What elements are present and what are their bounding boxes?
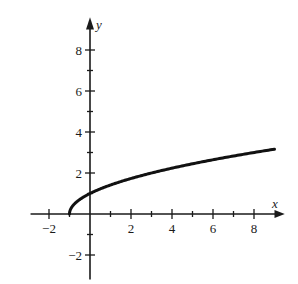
y-axis-arrow-icon bbox=[86, 17, 94, 29]
x-tick-label: 8 bbox=[251, 221, 258, 236]
tick-labels: −22468−22468 bbox=[42, 43, 257, 263]
axes bbox=[31, 17, 285, 279]
y-axis-label: y bbox=[94, 17, 102, 32]
x-tick-label: 4 bbox=[169, 221, 176, 236]
ticks bbox=[49, 50, 254, 255]
y-tick-label: 2 bbox=[76, 166, 83, 181]
x-tick-label: −2 bbox=[42, 221, 56, 236]
function-graph: −22468−22468 x y bbox=[0, 0, 298, 284]
x-axis-arrow-icon bbox=[275, 210, 285, 218]
x-tick-label: 2 bbox=[128, 221, 135, 236]
x-tick-label: 6 bbox=[210, 221, 217, 236]
y-tick-label: 8 bbox=[76, 43, 83, 58]
y-tick-label: −2 bbox=[68, 248, 82, 263]
x-axis-label: x bbox=[271, 196, 278, 211]
y-tick-label: 6 bbox=[76, 84, 83, 99]
function-curve bbox=[70, 149, 275, 214]
y-tick-label: 4 bbox=[76, 125, 83, 140]
